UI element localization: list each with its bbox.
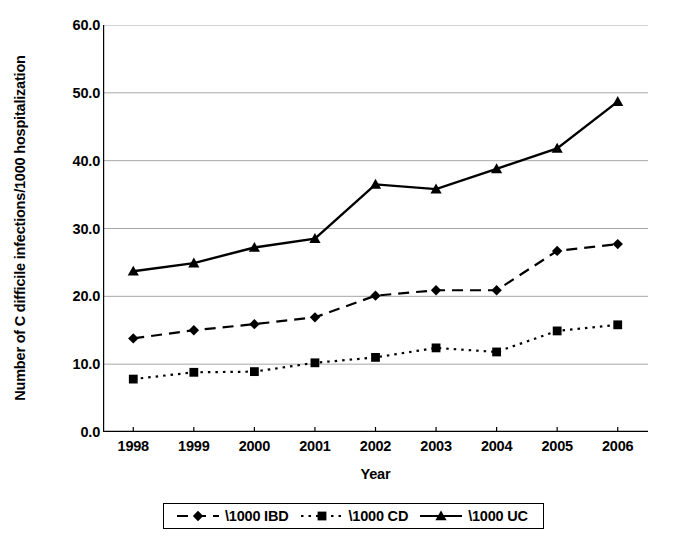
chart-legend: \1000 IBD\1000 CD\1000 UC	[163, 503, 544, 529]
y-tick-label: 40.0	[42, 153, 100, 169]
legend-key-triangle-icon	[418, 509, 464, 523]
series-line	[133, 325, 617, 379]
x-tick-label: 2003	[420, 438, 451, 454]
y-axis-ticks: 0.010.020.030.040.050.060.0	[40, 0, 100, 542]
marker-diamond	[249, 319, 259, 329]
legend-key-square-icon	[299, 509, 345, 523]
legend-label: \1000 UC	[468, 508, 528, 524]
x-tick-label: 2002	[360, 438, 391, 454]
legend-key-diamond-icon	[175, 509, 221, 523]
marker-square	[317, 512, 326, 521]
legend-label: \1000 CD	[349, 508, 409, 524]
marker-triangle	[612, 96, 623, 106]
x-axis-title: Year	[103, 466, 648, 482]
y-tick-label: 60.0	[42, 17, 100, 33]
series-1	[129, 320, 622, 383]
x-tick-label: 2004	[481, 438, 512, 454]
x-axis-ticks: 199819992000200120022003200420052006	[103, 438, 648, 460]
marker-diamond	[189, 325, 199, 335]
y-tick-label: 50.0	[42, 85, 100, 101]
legend-item: \1000 UC	[418, 508, 532, 524]
y-tick-label: 10.0	[42, 356, 100, 372]
marker-square	[371, 353, 380, 362]
marker-square	[492, 348, 501, 357]
marker-square	[553, 327, 562, 336]
legend-item: \1000 CD	[299, 508, 413, 524]
marker-diamond	[370, 290, 380, 300]
marker-square	[311, 358, 320, 367]
plot-area	[103, 25, 648, 432]
series-2	[128, 96, 624, 276]
series-0	[128, 239, 623, 344]
x-tick-label: 2000	[239, 438, 270, 454]
y-axis-title: Number of C difficile infections/1000 ho…	[0, 0, 40, 455]
marker-diamond	[128, 333, 138, 343]
legend-item: \1000 IBD	[175, 508, 293, 524]
marker-square	[250, 367, 259, 376]
y-tick-label: 20.0	[42, 288, 100, 304]
marker-diamond	[310, 312, 320, 322]
marker-diamond	[491, 285, 501, 295]
y-tick-label: 30.0	[42, 221, 100, 237]
legend-label: \1000 IBD	[225, 508, 289, 524]
x-tick-label: 2006	[602, 438, 633, 454]
x-tick-label: 1998	[118, 438, 149, 454]
marker-square	[613, 320, 622, 329]
x-tick-label: 2001	[299, 438, 330, 454]
marker-diamond	[193, 511, 203, 521]
y-axis-title-text: Number of C difficile infections/1000 ho…	[12, 55, 28, 401]
marker-square	[189, 368, 198, 377]
marker-diamond	[431, 285, 441, 295]
x-tick-label: 2005	[541, 438, 572, 454]
x-tick-label: 1999	[178, 438, 209, 454]
marker-diamond	[613, 239, 623, 249]
y-tick-label: 0.0	[42, 424, 100, 440]
chart-figure: Number of C difficile infections/1000 ho…	[0, 0, 676, 542]
marker-square	[129, 375, 138, 384]
marker-square	[432, 343, 441, 352]
